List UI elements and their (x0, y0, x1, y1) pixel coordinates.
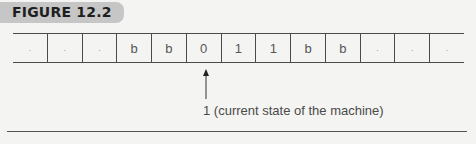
tape-cell: . (430, 34, 464, 62)
turing-tape: . . . b b 0 1 1 b b . . . (13, 33, 464, 63)
tape-cell: . (13, 34, 48, 62)
figure-label: FIGURE 12.2 (0, 2, 124, 23)
head-state-caption: 1 (current state of the machine) (203, 103, 384, 118)
tape-cell: b (117, 34, 152, 62)
tape-cell: . (361, 34, 396, 62)
tape-cell: . (83, 34, 118, 62)
tape-cell: b (291, 34, 326, 62)
bottom-rule (7, 131, 467, 132)
tape-cell: 1 (222, 34, 257, 62)
tape-cell: b (152, 34, 187, 62)
tape-cell-head: 0 (187, 34, 222, 62)
tape-cell: . (48, 34, 83, 62)
tape-cell: . (395, 34, 430, 62)
tape-cell: b (326, 34, 361, 62)
up-arrow-icon (200, 68, 212, 100)
tape-cell: 1 (256, 34, 291, 62)
